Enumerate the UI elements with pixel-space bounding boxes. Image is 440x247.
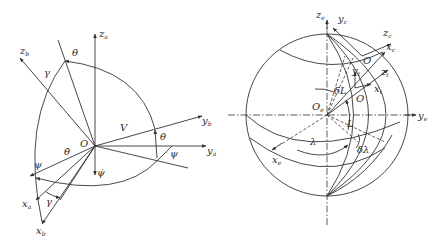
label-ze: ze — [315, 9, 325, 21]
right-figure-earth-frames: ze yc zc xc O yt zt xt O δL Oe L λ δλ ye… — [228, 9, 428, 225]
label-ye: ye — [417, 110, 428, 122]
label-zt: zt — [380, 66, 389, 78]
label-Oe: Oe — [312, 101, 324, 113]
label-xt: xt — [374, 83, 383, 95]
label-xb: xb — [36, 225, 46, 237]
label-deltaL: δL — [334, 85, 347, 96]
label-yt: yt — [351, 65, 361, 77]
label-V: V — [120, 122, 129, 133]
radial-dashed-3 — [327, 115, 385, 142]
label-theta-dot: θ̇ — [64, 146, 70, 157]
label-xa: xa — [22, 198, 32, 210]
label-psi-dot: ψ̇ — [97, 167, 105, 178]
diagram-canvas: za zb θ γ yb ya V θ ψ O θ̇ ψ̇ ψ xa γ xb — [0, 0, 440, 247]
label-gamma-top: γ — [44, 67, 50, 78]
label-zc: zc — [382, 27, 392, 39]
label-psi-left: ψ — [34, 159, 42, 170]
label-gamma-bottom: γ — [46, 196, 52, 207]
label-xc: xc — [386, 41, 396, 53]
label-lambda: λ — [309, 136, 316, 147]
label-theta-right: θ — [160, 131, 166, 142]
label-deltaLambda: δλ — [357, 144, 369, 155]
latitude-arc-mid — [246, 115, 400, 142]
left-figure-attitude-angles: za zb θ γ yb ya V θ ψ O θ̇ ψ̇ ψ xa γ xb — [19, 28, 217, 237]
lambda-arc — [297, 145, 348, 155]
label-L: L — [346, 118, 354, 129]
xb-axis — [42, 146, 95, 224]
label-za: za — [98, 28, 108, 40]
label-yb: yb — [201, 115, 212, 127]
label-yc: yc — [337, 13, 348, 25]
yb-axis — [95, 116, 202, 146]
xe-arrow — [272, 143, 282, 150]
label-ya: ya — [206, 145, 217, 157]
label-origin: O — [80, 138, 88, 149]
label-theta-top: θ — [72, 47, 78, 58]
deltaL-arc — [315, 89, 334, 92]
label-O-mid: O — [356, 93, 364, 104]
label-O-top: O — [363, 55, 371, 66]
label-psi-right: ψ — [170, 148, 178, 159]
xe-dashed — [280, 115, 327, 145]
label-zb: zb — [19, 45, 29, 57]
theta-arc-top — [65, 61, 155, 129]
theta-arc-right — [155, 130, 157, 158]
